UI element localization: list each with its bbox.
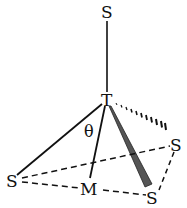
edge-s-left-m: [22, 182, 80, 188]
label-s-bottom-right: S: [146, 188, 158, 208]
edge-m-s-bottom-right: [103, 190, 146, 195]
label-theta: θ: [84, 122, 94, 141]
tetrahedral-diagram: S T θ S S M S: [0, 0, 187, 208]
edge-s-right-s-bottom-right: [159, 152, 174, 190]
bond-t-s-bottom-right-wedge: [109, 106, 152, 187]
label-s-right: S: [170, 135, 182, 155]
label-t: T: [101, 90, 113, 110]
label-m: M: [80, 179, 97, 199]
bond-t-m: [90, 106, 105, 178]
bond-t-s-right-hashed: [116, 103, 166, 130]
label-s-top: S: [101, 2, 113, 22]
label-s-left: S: [6, 171, 18, 191]
